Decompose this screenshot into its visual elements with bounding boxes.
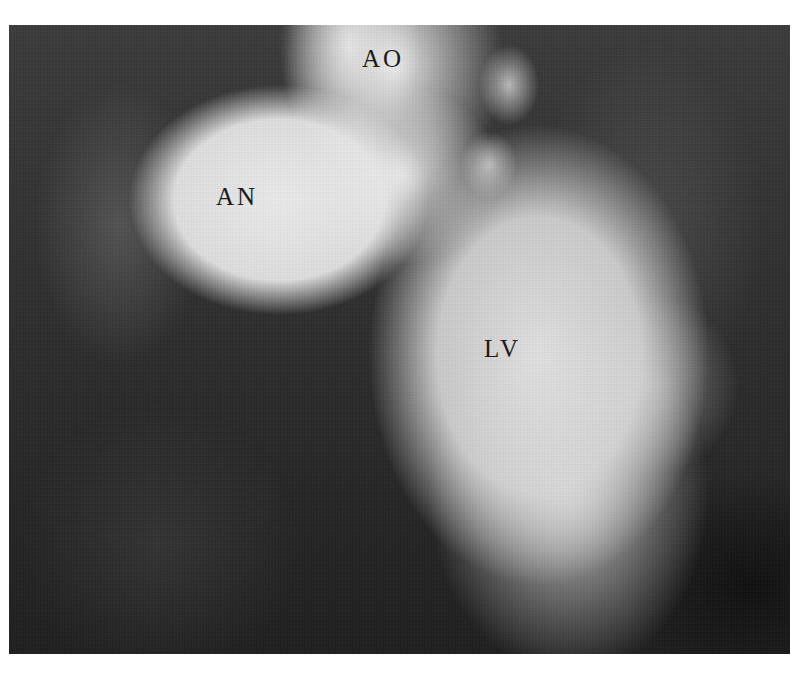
film-grain — [9, 25, 790, 654]
label-aorta: AO — [362, 45, 404, 73]
label-left-ventricle: LV — [484, 335, 521, 363]
label-aneurysm: AN — [216, 183, 258, 211]
angiogram-image — [9, 25, 790, 654]
